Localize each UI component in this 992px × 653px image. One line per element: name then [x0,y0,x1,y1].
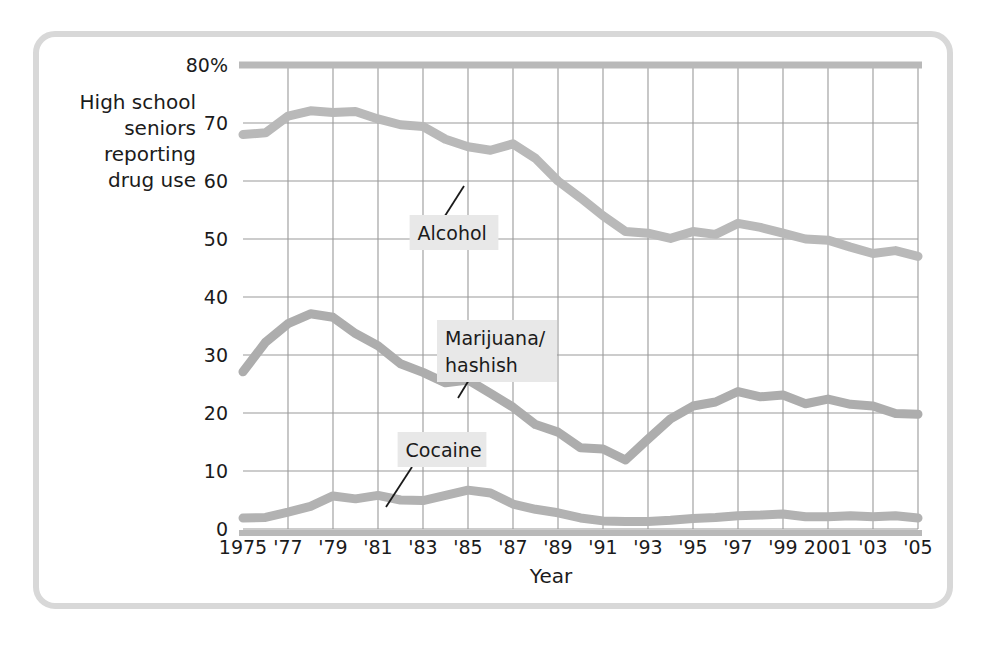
x-tick-label: '79 [318,536,347,558]
y-axis-title-line: drug use [108,168,196,192]
x-tick-label: '85 [453,536,482,558]
x-tick-label: '83 [408,536,437,558]
x-tick-label: '97 [723,536,752,558]
series-line-alcohol [243,111,918,257]
series-label-marijuana-hashish: hashish [445,354,518,376]
chart-gridlines [243,65,918,529]
x-tick-label: '77 [273,536,302,558]
y-axis-title-line: High school [80,90,196,114]
y-tick-label: 80% [186,54,228,76]
x-axis-title-label: Year [529,564,573,588]
x-tick-label: '03 [858,536,887,558]
series-label-marijuana-hashish: Marijuana/ [445,327,546,349]
y-tick-label: 20 [204,402,228,424]
y-axis-title: High schoolseniorsreportingdrug use [80,90,196,192]
y-axis-title-line: seniors [124,116,196,140]
x-axis-title: Year [529,564,573,588]
y-tick-label: 30 [204,344,228,366]
x-tick-label: '99 [768,536,797,558]
series-label-cocaine: Cocaine [406,439,482,461]
x-tick-label: 2001 [804,536,852,558]
series-annotations: AlcoholMarijuana/hashishCocaine [386,186,557,507]
x-tick-label: '95 [678,536,707,558]
y-tick-label: 60 [204,170,228,192]
y-tick-label: 50 [204,228,228,250]
series-line-marijuana-hashish [243,314,918,460]
y-axis-title-line: reporting [104,142,196,166]
series-label-alcohol: Alcohol [418,222,487,244]
x-tick-label: 1975 [219,536,267,558]
x-tick-label: '89 [543,536,572,558]
y-tick-label: 40 [204,286,228,308]
y-tick-label: 70 [204,112,228,134]
drug-use-line-chart: High schoolseniorsreportingdrug use 0102… [0,0,992,653]
plot-area-borders [239,65,922,533]
y-tick-label: 10 [204,460,228,482]
x-axis-tick-labels: 1975'77'79'81'83'85'87'89'91'93'95'97'99… [219,536,933,558]
x-tick-label: '91 [588,536,617,558]
chart-series-lines [243,111,918,522]
x-tick-label: '93 [633,536,662,558]
x-tick-label: '87 [498,536,527,558]
x-tick-label: '05 [903,536,932,558]
series-line-cocaine [243,490,918,521]
x-tick-label: '81 [363,536,392,558]
